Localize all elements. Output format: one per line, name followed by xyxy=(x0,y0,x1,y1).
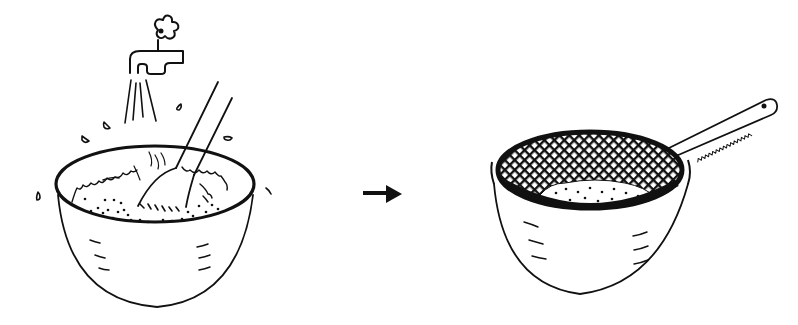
water-surface xyxy=(72,167,227,202)
mixing-bowl xyxy=(56,146,254,307)
water-stream xyxy=(125,80,156,123)
mesh-sieve xyxy=(491,132,690,212)
arrow-right-icon xyxy=(363,185,402,203)
step-2-draining xyxy=(491,99,777,294)
water-droplets xyxy=(37,104,271,200)
rice-rinsing-illustration xyxy=(0,0,798,325)
sieve-handle xyxy=(667,99,777,162)
illustration xyxy=(0,0,798,325)
faucet-icon xyxy=(130,16,183,74)
step-1-rinsing xyxy=(37,16,271,307)
